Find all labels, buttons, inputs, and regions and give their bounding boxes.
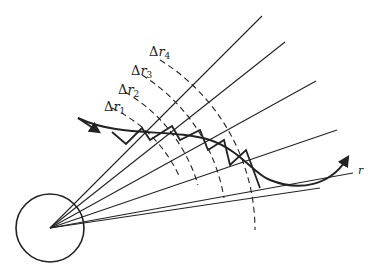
label-r-axis: r: [358, 164, 363, 177]
label-delta-r3: Δr3: [131, 63, 152, 80]
radial-rays: [50, 16, 353, 228]
label-delta-r4: Δr4: [149, 44, 170, 61]
label-delta-r1: Δr1: [104, 99, 125, 116]
diagram-drawing: [0, 0, 379, 275]
label-delta-r2: Δr2: [118, 82, 139, 99]
ray-tracing-diagram: Δr1 Δr2 Δr3 Δr4 r: [0, 0, 379, 275]
curved-ray-path: [78, 118, 346, 186]
